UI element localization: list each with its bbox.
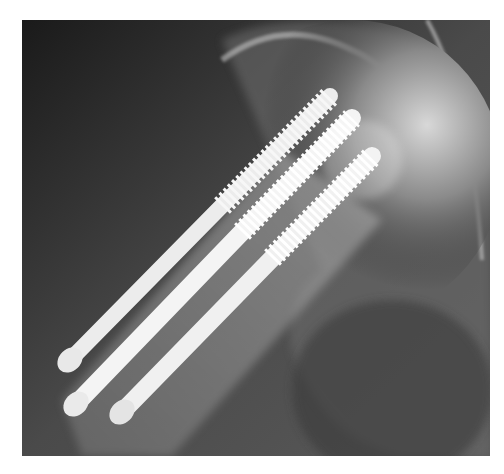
xray-image [22, 20, 490, 456]
xray-illustration [22, 20, 490, 456]
